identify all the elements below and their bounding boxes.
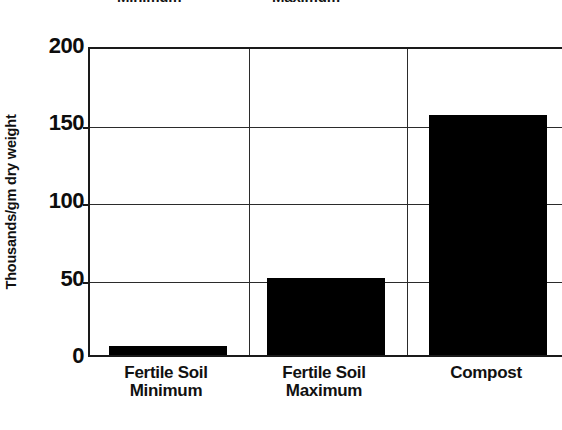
bar-fertile-soil-minimum <box>109 346 227 355</box>
x-tick-label-line1: Compost <box>450 363 522 382</box>
x-tick-label-line1: Fertile Soil <box>282 363 365 382</box>
category-divider-2 <box>407 49 408 355</box>
y-tickmark-50 <box>83 282 90 284</box>
bar-chart-figure: Minimum Maximum Thousands/gm dry weight … <box>0 0 562 430</box>
x-tick-label-line1: Fertile Soil <box>124 363 207 382</box>
x-tick-label-fertile-soil-maximum: Fertile Soil Maximum <box>265 364 383 401</box>
x-tick-label-compost: Compost <box>427 364 545 382</box>
x-axis-tick-labels: Fertile Soil Minimum Fertile Soil Maximu… <box>88 364 562 430</box>
clipped-header-minimum: Minimum <box>117 0 181 2</box>
bar-compost <box>429 115 547 355</box>
y-tickmark-150 <box>83 127 90 129</box>
y-tick-label-200: 200 <box>22 35 84 57</box>
clipped-header-row: Minimum Maximum <box>0 0 562 2</box>
y-tick-label-50: 50 <box>22 268 84 290</box>
x-tick-label-line2: Minimum <box>107 382 225 400</box>
bar-fertile-soil-maximum <box>267 278 385 356</box>
y-tick-label-0: 0 <box>22 345 84 367</box>
plot-area <box>88 47 562 357</box>
category-divider-1 <box>249 49 250 355</box>
clipped-header-maximum: Maximum <box>272 0 340 2</box>
y-tick-label-100: 100 <box>22 190 84 212</box>
y-tick-label-150: 150 <box>22 112 84 134</box>
y-tickmark-100 <box>83 204 90 206</box>
x-tick-label-line2: Maximum <box>265 382 383 400</box>
y-axis-tick-labels: 200 150 100 50 0 <box>14 0 84 430</box>
x-tick-label-fertile-soil-minimum: Fertile Soil Minimum <box>107 364 225 401</box>
